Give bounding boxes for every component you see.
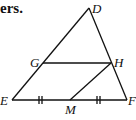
label-H: H [113, 55, 124, 70]
segment-DE [12, 8, 89, 100]
segment-DF [89, 8, 127, 100]
segment-HM [70, 63, 111, 100]
triangle-diagram: D E F G H M [0, 0, 136, 120]
label-E: E [0, 93, 8, 108]
label-D: D [91, 1, 102, 16]
label-M: M [64, 102, 77, 117]
label-F: F [127, 93, 136, 108]
label-G: G [30, 55, 40, 70]
